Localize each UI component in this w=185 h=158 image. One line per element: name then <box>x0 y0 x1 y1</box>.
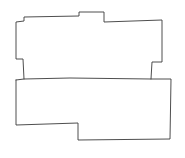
upper-room-outline <box>16 12 162 79</box>
sketch-canvas <box>0 0 185 158</box>
lower-room-outline <box>16 78 171 140</box>
floor-plan-sketch <box>0 0 185 158</box>
